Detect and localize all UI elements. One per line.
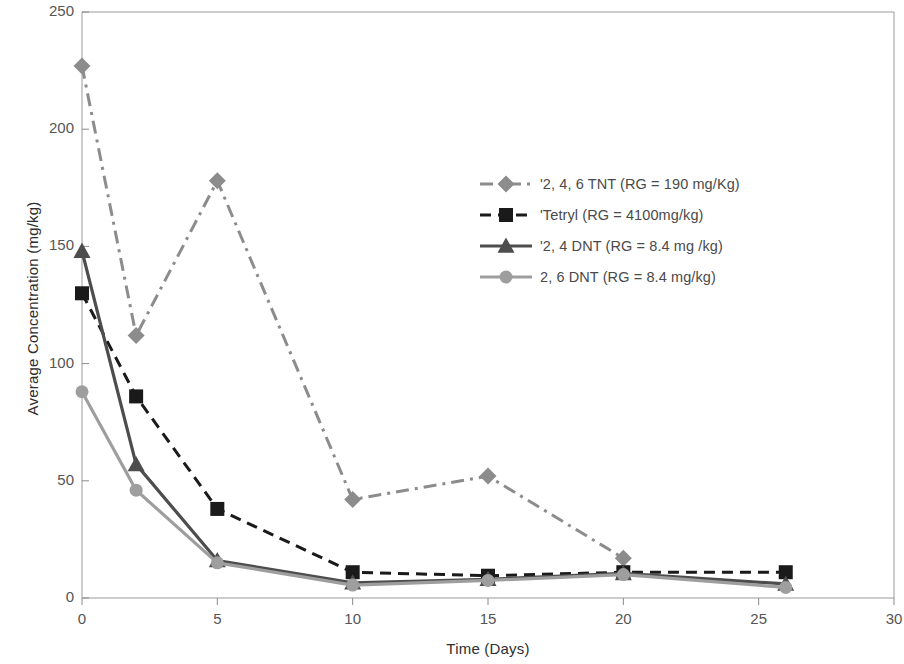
data-point-square <box>210 502 224 516</box>
data-point-diamond <box>209 172 226 189</box>
legend-item-label: '2, 4, 6 TNT (RG = 190 mg/Kg) <box>534 176 740 192</box>
data-point-diamond <box>480 468 497 485</box>
y-tick-label: 0 <box>14 588 74 605</box>
x-tick-label: 30 <box>874 610 904 627</box>
data-point-diamond <box>344 491 361 508</box>
legend-item-1[interactable]: 'Tetryl (RG = 4100mg/kg) <box>478 199 808 230</box>
series-line <box>82 293 786 575</box>
series-1 <box>75 286 793 582</box>
y-tick-label: 200 <box>14 119 74 136</box>
legend-sample-glyph <box>478 236 534 256</box>
series-line <box>82 251 786 584</box>
legend-item-label: 2, 6 DNT (RG = 8.4 mg/kg) <box>534 269 716 285</box>
x-tick-label: 0 <box>62 610 102 627</box>
legend-marker-icon <box>478 174 534 194</box>
legend-sample-glyph <box>478 205 534 225</box>
legend-sample-glyph <box>478 174 534 194</box>
data-point-square <box>499 208 513 222</box>
data-point-diamond <box>615 550 632 567</box>
legend-sample-glyph <box>478 267 534 287</box>
data-point-diamond <box>128 327 145 344</box>
series-2 <box>74 243 795 591</box>
x-tick-label: 10 <box>333 610 373 627</box>
data-point-square <box>75 286 89 300</box>
data-point-circle <box>76 385 89 398</box>
chart-legend: '2, 4, 6 TNT (RG = 190 mg/Kg)'Tetryl (RG… <box>478 168 808 292</box>
y-tick-label: 250 <box>14 2 74 19</box>
legend-item-2[interactable]: '2, 4 DNT (RG = 8.4 mg /kg) <box>478 230 808 261</box>
legend-item-0[interactable]: '2, 4, 6 TNT (RG = 190 mg/Kg) <box>478 168 808 199</box>
plot-frame <box>82 12 894 598</box>
data-point-diamond <box>498 175 515 192</box>
y-tick-label: 150 <box>14 236 74 253</box>
legend-item-3[interactable]: 2, 6 DNT (RG = 8.4 mg/kg) <box>478 261 808 292</box>
x-axis-title: Time (Days) <box>82 640 894 657</box>
y-axis-title: Average Concentration (mg/kg) <box>24 159 41 459</box>
x-tick-label: 5 <box>197 610 237 627</box>
data-point-circle <box>346 579 359 592</box>
y-tick-label: 100 <box>14 354 74 371</box>
data-point-circle <box>211 556 224 569</box>
data-point-circle <box>617 568 630 581</box>
x-tick-label: 20 <box>603 610 643 627</box>
data-point-square <box>129 389 143 403</box>
plot-area <box>0 0 904 664</box>
series-3 <box>76 385 793 594</box>
data-point-circle <box>130 484 143 497</box>
legend-item-label: 'Tetryl (RG = 4100mg/kg) <box>534 207 704 223</box>
data-point-circle <box>500 270 513 283</box>
legend-marker-icon <box>478 267 534 287</box>
line-chart: Average Concentration (mg/kg) Time (Days… <box>0 0 904 664</box>
y-tick-label: 50 <box>14 471 74 488</box>
data-point-circle <box>482 574 495 587</box>
x-tick-label: 25 <box>739 610 779 627</box>
data-point-circle <box>779 581 792 594</box>
legend-marker-icon <box>478 205 534 225</box>
legend-marker-icon <box>478 236 534 256</box>
data-point-diamond <box>74 57 91 74</box>
data-point-triangle <box>74 243 91 258</box>
legend-item-label: '2, 4 DNT (RG = 8.4 mg /kg) <box>534 238 723 254</box>
data-point-triangle <box>128 456 145 471</box>
series-line <box>82 66 623 558</box>
x-tick-label: 15 <box>468 610 508 627</box>
series-line <box>82 392 786 588</box>
